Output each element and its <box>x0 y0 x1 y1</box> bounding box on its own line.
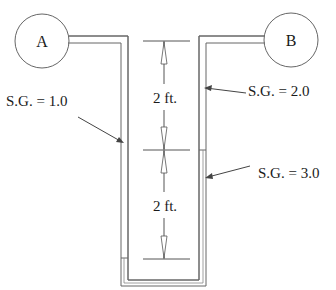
leader-arrow-icon <box>116 137 124 143</box>
arrow-down-icon <box>161 127 167 149</box>
sg-3-text: S.G. = 3.0 <box>258 165 319 181</box>
sg-label-1: S.G. = 1.0 <box>6 93 124 143</box>
tube-inner-wall <box>69 36 264 280</box>
tube-inner-path <box>68 36 265 280</box>
manometer-diagram: A B 2 ft. 2 ft. <box>0 0 336 290</box>
tank-b: B <box>264 13 318 67</box>
sg-label-2: S.G. = 2.0 <box>204 83 309 99</box>
arrow-up-icon <box>161 151 167 173</box>
leader-arrow-icon <box>204 85 212 91</box>
tube-outer-wall-a <box>69 43 264 286</box>
dimensions <box>143 41 190 259</box>
tank-a: A <box>15 14 69 68</box>
arrow-up-icon <box>161 42 167 64</box>
dimension-label-lower: 2 ft. <box>153 198 177 214</box>
dimension-label-upper: 2 ft. <box>153 90 177 106</box>
u-tube <box>68 36 265 286</box>
sg-1-text: S.G. = 1.0 <box>6 93 67 109</box>
arrow-down-icon <box>161 236 167 258</box>
tube-outer-wall <box>68 43 265 286</box>
tank-b-label: B <box>286 32 297 49</box>
tank-a-label: A <box>36 33 48 50</box>
sg-label-3: S.G. = 3.0 <box>205 165 319 181</box>
sg-2-text: S.G. = 2.0 <box>248 83 309 99</box>
